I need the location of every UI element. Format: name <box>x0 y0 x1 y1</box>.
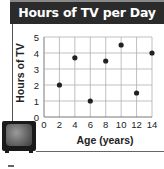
svg-text:4: 4 <box>72 119 77 130</box>
x-axis-label: Age (years) <box>60 134 150 146</box>
svg-text:0: 0 <box>41 119 46 130</box>
svg-text:2: 2 <box>57 119 62 130</box>
television-icon <box>2 121 36 154</box>
svg-text:8: 8 <box>103 119 108 130</box>
data-point <box>149 50 154 55</box>
svg-text:3: 3 <box>34 64 39 75</box>
svg-text:14: 14 <box>147 119 158 130</box>
y-tick-labels: 012345 <box>34 32 39 123</box>
svg-text:4: 4 <box>34 48 39 59</box>
corner-mark <box>8 165 14 167</box>
data-point <box>88 98 93 103</box>
svg-text:1: 1 <box>34 96 39 107</box>
y-axis-label: Hours of TV <box>14 43 26 103</box>
data-point <box>57 82 62 87</box>
svg-text:5: 5 <box>34 32 39 43</box>
data-point <box>134 90 139 95</box>
svg-text:10: 10 <box>116 119 127 130</box>
x-tick-labels: 02468101214 <box>41 119 157 130</box>
svg-text:12: 12 <box>131 119 142 130</box>
data-point <box>72 55 77 60</box>
data-point <box>119 42 124 47</box>
grid-lines <box>44 37 152 117</box>
data-point <box>103 58 108 63</box>
svg-text:2: 2 <box>34 80 39 91</box>
svg-text:6: 6 <box>88 119 93 130</box>
